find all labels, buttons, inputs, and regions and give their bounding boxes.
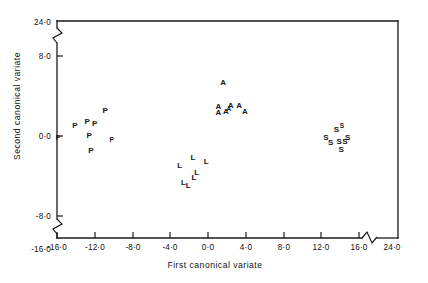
data-point-p: P (92, 119, 98, 128)
data-point-s: S (334, 125, 340, 134)
y-tick-label-0: 0·0 (39, 132, 52, 141)
data-point-l: L (177, 161, 182, 170)
data-point-l: L (186, 181, 191, 190)
data-point-l: L (191, 173, 196, 182)
data-points-layer: PPPPPPPPLLLLLLLAAAAAAAASSSSSSSS (56, 78, 351, 190)
data-point-p: P (86, 131, 92, 140)
data-point-l: L (204, 157, 209, 166)
x-tick-label-4: 4·0 (240, 243, 253, 252)
x-tick-label-16: 16·0 (351, 243, 368, 252)
x-tick-label-neg12: -12·0 (85, 243, 105, 252)
data-point-p: P (56, 134, 61, 141)
x-tick-label-0: 0·0 (202, 243, 215, 252)
x-tick-label-neg4: -4·0 (162, 243, 177, 252)
data-point-p: P (72, 121, 78, 130)
x-tick-label-24: 24·0 (384, 243, 401, 252)
data-point-s: S (328, 138, 334, 147)
data-point-p: P (110, 136, 115, 143)
x-axis: -16·0 -12·0 -8·0 -4·0 0·0 4·0 8·0 12·0 1… (47, 232, 401, 270)
figure-container: 24·0 8·0 0·0 -8·0 -16·0 Second canonical… (0, 0, 428, 283)
y-tick-label-8: 8·0 (39, 52, 52, 61)
x-axis-title: First canonical variate (167, 260, 262, 270)
data-point-s: S (338, 145, 344, 154)
data-point-p: P (102, 106, 108, 115)
data-point-l: L (190, 153, 195, 162)
data-point-a: A (226, 105, 231, 112)
scatter-plot-svg: 24·0 8·0 0·0 -8·0 -16·0 Second canonical… (0, 0, 428, 283)
y-axis-upper-break (53, 28, 62, 43)
data-point-s: S (340, 122, 345, 129)
data-point-s: S (345, 133, 351, 142)
data-point-p: P (88, 146, 94, 155)
x-tick-label-12: 12·0 (313, 243, 330, 252)
data-point-a: A (215, 108, 221, 117)
data-point-a: A (242, 107, 248, 116)
x-tick-label-neg16: -16·0 (47, 243, 67, 252)
y-tick-label-neg8: -8·0 (36, 212, 51, 221)
plot-frame (57, 21, 398, 238)
x-tick-label-8: 8·0 (278, 243, 291, 252)
y-tick-label-24: 24·0 (34, 18, 51, 27)
y-axis-title: Second canonical variate (12, 52, 22, 160)
data-point-p: P (85, 117, 91, 126)
y-axis-lower-break (53, 219, 62, 234)
data-point-a: A (220, 78, 226, 87)
x-axis-break (362, 232, 377, 243)
x-tick-label-neg8: -8·0 (125, 243, 140, 252)
